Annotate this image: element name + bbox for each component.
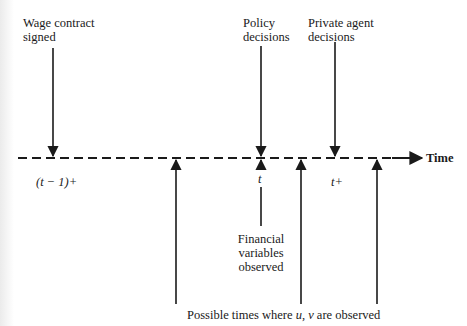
policy-decisions-label-line2: decisions	[243, 30, 290, 44]
wage-contract-label-line2: signed	[23, 30, 95, 44]
bottom-caption-suffix: are observed	[314, 308, 381, 322]
policy-decisions-label: Policy decisions	[243, 16, 290, 44]
tick-label-t-minus-1-plus: (t − 1)+	[36, 175, 77, 189]
tick-label-t-plus: t+	[331, 175, 343, 189]
financial-variables-label-line1: Financial	[232, 232, 290, 246]
wage-contract-label-line1: Wage contract	[23, 16, 95, 30]
tick-label-t: t	[258, 172, 261, 186]
financial-variables-label-line2: variables	[232, 246, 290, 260]
financial-variables-label: Financial variables observed	[232, 232, 290, 274]
private-agent-decisions-label-line1: Private agent	[308, 16, 374, 30]
private-agent-decisions-label-line2: decisions	[308, 30, 374, 44]
bottom-caption: Possible times where u, v are observed	[187, 308, 380, 322]
wage-contract-label: Wage contract signed	[23, 16, 95, 44]
private-agent-decisions-label: Private agent decisions	[308, 16, 374, 44]
timeline-diagram	[0, 0, 467, 326]
policy-decisions-label-line1: Policy	[243, 16, 290, 30]
bottom-caption-prefix: Possible times where	[187, 308, 296, 322]
time-axis-label: Time	[426, 151, 454, 165]
financial-variables-label-line3: observed	[232, 260, 290, 274]
